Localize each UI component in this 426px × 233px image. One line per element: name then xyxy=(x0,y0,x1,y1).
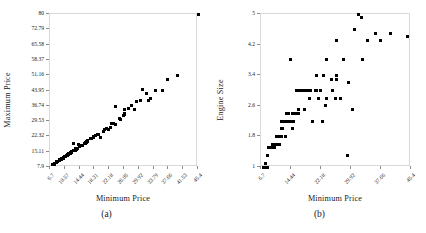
scatter-point xyxy=(280,135,283,138)
y-tick-mark xyxy=(46,105,49,106)
scatter-point xyxy=(277,143,280,146)
plot-area-b xyxy=(260,13,410,166)
scatter-point xyxy=(280,127,283,130)
scatter-point xyxy=(308,89,311,92)
scatter-point xyxy=(75,148,78,151)
scatter-point xyxy=(303,108,306,111)
scatter-point xyxy=(86,140,89,143)
y-tick-label: 29.53 xyxy=(0,117,44,123)
scatter-point xyxy=(62,156,65,159)
scatter-point xyxy=(97,133,100,136)
scatter-point xyxy=(262,166,265,169)
scatter-point xyxy=(289,58,292,61)
scatter-point xyxy=(315,74,318,77)
scatter-point xyxy=(130,104,133,107)
scatter-point xyxy=(72,142,75,145)
scatter-point xyxy=(335,39,338,42)
y-tick-label: 51.16 xyxy=(0,71,44,77)
scatter-point xyxy=(379,39,382,42)
scatter-point xyxy=(161,89,164,92)
scatter-point xyxy=(325,58,328,61)
y-tick-mark xyxy=(257,105,260,106)
scatter-point xyxy=(297,108,300,111)
y-tick-mark xyxy=(46,59,49,60)
y-tick-mark xyxy=(46,90,49,91)
panel-caption-b: (b) xyxy=(213,209,426,219)
scatter-point xyxy=(335,78,338,81)
y-tick-mark xyxy=(257,44,260,45)
y-tick-mark xyxy=(46,44,49,45)
y-tick-mark xyxy=(46,13,49,14)
scatter-point xyxy=(147,99,150,102)
y-tick-label: 7.9 xyxy=(0,163,44,169)
x-tick-label: 29.92 xyxy=(335,172,356,193)
plot-area-a xyxy=(49,13,197,166)
scatter-point xyxy=(353,28,356,31)
scatter-point xyxy=(291,127,294,130)
scatter-point xyxy=(339,97,342,100)
scatter-point xyxy=(374,32,377,35)
x-tick-label: 14.44 xyxy=(275,172,296,193)
scatter-point xyxy=(295,89,298,92)
y-tick-label: 22.32 xyxy=(0,132,44,138)
scatter-point xyxy=(322,74,325,77)
scatter-point xyxy=(273,143,276,146)
x-axis-title-a: Minimum Price xyxy=(49,194,197,203)
y-tick-label: 58.37 xyxy=(0,56,44,62)
x-tick-mark xyxy=(93,166,94,169)
y-tick-mark xyxy=(257,74,260,75)
scatter-point xyxy=(112,122,115,125)
scatter-point xyxy=(51,163,54,166)
scatter-point xyxy=(302,89,305,92)
x-tick-mark xyxy=(197,166,198,169)
scatter-point xyxy=(145,92,148,95)
y-tick-mark xyxy=(257,13,260,14)
scatter-point xyxy=(176,74,179,77)
x-axis-title-b: Minimum Price xyxy=(260,194,410,203)
scatter-point xyxy=(264,162,267,165)
scatter-point xyxy=(346,154,349,157)
scatter-point xyxy=(267,146,270,149)
x-tick-mark xyxy=(290,166,291,169)
scatter-point xyxy=(135,100,138,103)
scatter-point xyxy=(127,107,130,110)
x-tick-label: 45.4 xyxy=(395,172,416,193)
scatter-point xyxy=(133,108,136,111)
scatter-point xyxy=(141,88,144,91)
y-tick-label: 5 xyxy=(213,10,255,16)
scatter-point xyxy=(331,89,334,92)
panel-a: Maximum Price Minimum Price (a) 7.915.11… xyxy=(0,0,213,233)
scatter-point xyxy=(360,16,363,19)
scatter-point xyxy=(325,97,328,100)
scatter-point xyxy=(270,146,273,149)
scatter-point xyxy=(389,32,392,35)
scatter-point xyxy=(292,120,295,123)
y-tick-label: 1 xyxy=(213,163,255,169)
x-tick-mark xyxy=(350,166,351,169)
x-tick-mark xyxy=(123,166,124,169)
x-tick-mark xyxy=(167,166,168,169)
scatter-point xyxy=(119,118,122,121)
x-tick-mark xyxy=(153,166,154,169)
scatter-point xyxy=(266,154,269,157)
scatter-point xyxy=(317,97,320,100)
scatter-point xyxy=(330,78,333,81)
scatter-point xyxy=(289,120,292,123)
y-tick-label: 3.4 xyxy=(213,71,255,77)
scatter-point xyxy=(83,142,86,145)
y-tick-label: 1.8 xyxy=(213,132,255,138)
panel-b: Engine Size Minimum Price (b) 11.82.63.4… xyxy=(213,0,426,233)
y-tick-mark xyxy=(46,135,49,136)
x-tick-mark xyxy=(410,166,411,169)
scatter-point xyxy=(311,120,314,123)
scatter-point xyxy=(283,120,286,123)
x-tick-mark xyxy=(380,166,381,169)
y-tick-label: 65.58 xyxy=(0,41,44,47)
scatter-point xyxy=(123,113,126,116)
scatter-point xyxy=(297,112,300,115)
y-tick-mark xyxy=(46,28,49,29)
x-tick-label: 22.18 xyxy=(305,172,326,193)
x-tick-mark xyxy=(320,166,321,169)
x-tick-mark xyxy=(138,166,139,169)
scatter-point xyxy=(347,81,350,84)
